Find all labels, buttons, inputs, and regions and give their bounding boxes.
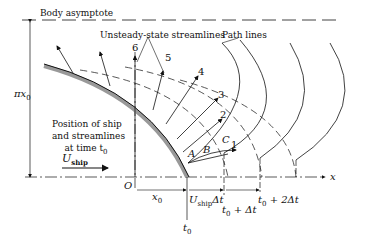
pi-x0-label: πx0 <box>14 89 31 102</box>
streamline-number-4: 4 <box>198 67 204 77</box>
u-ship-dt-label: UshipΔt <box>189 195 224 208</box>
u-ship-label: Uship <box>62 153 88 166</box>
streamline-number-3: 3 <box>218 90 224 100</box>
hull-normal-arrow <box>100 52 110 86</box>
t0-plus-2dt-label: t0 + 2Δt <box>258 195 299 208</box>
x0-label: x0 <box>152 192 162 205</box>
path-lines-label: Path lines <box>222 31 267 40</box>
point-b-label: B <box>203 145 210 155</box>
t0-plus-dt-label: t0 + Δt <box>222 205 256 218</box>
origin-label: O <box>124 181 132 191</box>
streamline-number-1: 1 <box>231 140 237 150</box>
t0-label: t0 <box>183 223 192 236</box>
path-line <box>224 40 266 153</box>
point-a-label: A <box>188 149 195 159</box>
streamline-number-6: 6 <box>132 43 138 53</box>
unsteady-streamlines-label: Unsteady-state streamlines <box>100 31 225 40</box>
streamline-number-5: 5 <box>165 53 171 63</box>
point-c-label: C <box>222 135 230 145</box>
ship-streamline-diagram: Body asymptote Unsteady-state streamline… <box>0 0 383 246</box>
streamline-number-2: 2 <box>220 110 226 120</box>
body-asymptote-label: Body asymptote <box>40 9 113 18</box>
x-axis-label: x <box>330 172 336 182</box>
